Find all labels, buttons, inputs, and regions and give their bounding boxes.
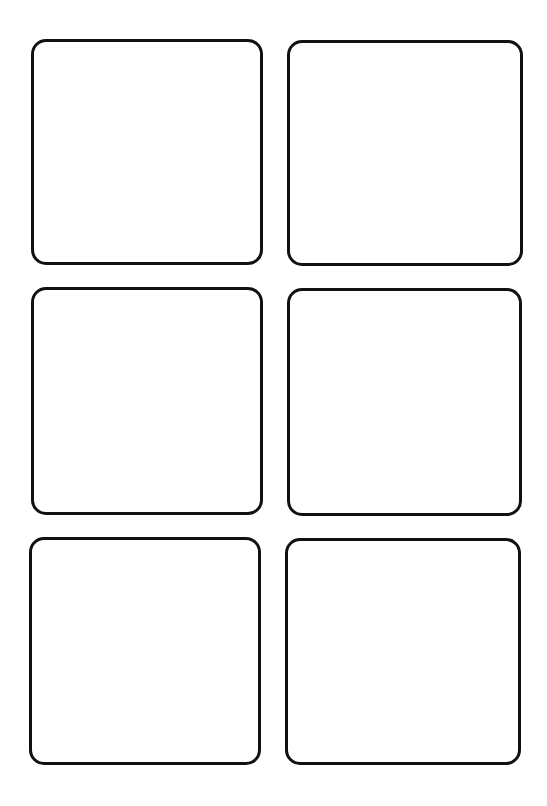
- blank-card-r2c1: [31, 287, 263, 515]
- blank-card-r1c1: [31, 39, 263, 265]
- blank-card-r3c1: [29, 537, 261, 765]
- blank-card-r2c2: [287, 288, 522, 516]
- blank-card-r3c2: [285, 538, 521, 765]
- blank-card-r1c2: [287, 40, 523, 266]
